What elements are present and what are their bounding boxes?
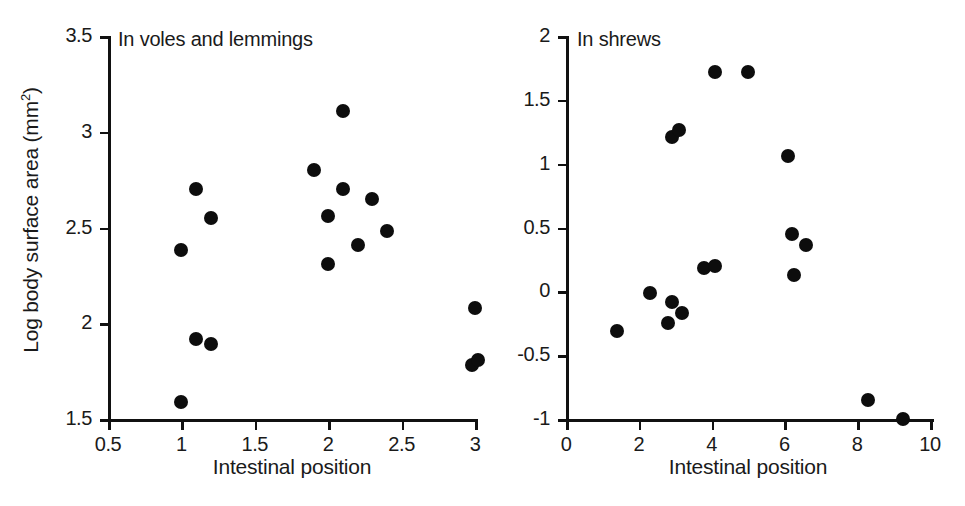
shrews-y-tick <box>558 355 566 358</box>
data-point <box>708 65 722 79</box>
shrews-y-tick <box>558 419 566 422</box>
data-point <box>189 332 203 346</box>
voles-x-tick <box>108 422 111 430</box>
data-point <box>672 123 686 137</box>
x-axis-label-voles: Intestinal position <box>108 455 476 479</box>
voles-y-tick-label: 3 <box>22 120 92 143</box>
data-point <box>675 306 689 320</box>
shrews-x-tick <box>566 422 569 430</box>
voles-y-tick <box>100 132 108 135</box>
shrews-y-axis-line <box>566 36 569 422</box>
voles-x-tick <box>475 422 478 430</box>
shrews-x-tick-label: 6 <box>744 433 824 456</box>
shrews-y-tick-label: 1.5 <box>480 88 550 111</box>
voles-x-tick <box>255 422 258 430</box>
shrews-y-tick-label: 2 <box>480 24 550 47</box>
voles-x-axis-line <box>108 419 478 422</box>
voles-y-tick <box>100 228 108 231</box>
figure-two-panel-scatter: Log body surface area (mm2) In voles and… <box>0 0 965 506</box>
x-axis-label-shrews: Intestinal position <box>566 455 930 479</box>
voles-x-tick <box>181 422 184 430</box>
voles-x-tick <box>328 422 331 430</box>
data-point <box>336 182 350 196</box>
voles-x-tick-label: 2.5 <box>362 433 442 456</box>
data-point <box>643 286 657 300</box>
data-point <box>321 257 335 271</box>
shrews-y-tick-label: 0.5 <box>480 216 550 239</box>
shrews-x-tick-label: 10 <box>890 433 965 456</box>
shrews-y-tick-label: 0 <box>480 279 550 302</box>
voles-x-tick <box>402 422 405 430</box>
shrews-x-tick <box>784 422 787 430</box>
shrews-x-tick <box>639 422 642 430</box>
shrews-x-tick-label: 4 <box>672 433 752 456</box>
shrews-y-tick-label: -1 <box>480 407 550 430</box>
voles-y-tick <box>100 323 108 326</box>
shrews-y-tick <box>558 36 566 39</box>
voles-y-axis-line <box>108 36 111 422</box>
data-point <box>204 211 218 225</box>
voles-x-tick-label: 1 <box>141 433 221 456</box>
data-point <box>174 243 188 257</box>
panel-voles-and-lemmings: Log body surface area (mm2) In voles and… <box>0 0 500 506</box>
shrews-y-tick-label: -0.5 <box>480 343 550 366</box>
plot-area-shrews: -1-0.500.511.520246810 <box>500 0 965 506</box>
data-point <box>610 324 624 338</box>
voles-y-tick <box>100 419 108 422</box>
data-point <box>380 224 394 238</box>
voles-y-tick-label: 1.5 <box>22 407 92 430</box>
data-point <box>896 412 910 426</box>
data-point <box>861 393 875 407</box>
shrews-y-tick <box>558 291 566 294</box>
voles-x-tick-label: 0.5 <box>68 433 148 456</box>
voles-y-tick-label: 2.5 <box>22 216 92 239</box>
data-point <box>741 65 755 79</box>
voles-y-tick-label: 3.5 <box>22 24 92 47</box>
shrews-y-tick <box>558 228 566 231</box>
data-point <box>787 268 801 282</box>
data-point <box>661 316 675 330</box>
data-point <box>665 295 679 309</box>
shrews-x-axis-line <box>566 419 934 422</box>
shrews-x-tick-label: 2 <box>599 433 679 456</box>
data-point <box>708 259 722 273</box>
voles-x-tick-label: 1.5 <box>215 433 295 456</box>
data-point <box>785 227 799 241</box>
data-point <box>781 149 795 163</box>
data-point <box>351 238 365 252</box>
shrews-y-tick-label: 1 <box>480 152 550 175</box>
shrews-x-tick-label: 0 <box>526 433 606 456</box>
voles-y-tick <box>100 36 108 39</box>
data-point <box>468 301 482 315</box>
shrews-x-tick <box>930 422 933 430</box>
plot-area-voles: 1.522.533.50.511.522.53 <box>0 0 500 506</box>
data-point <box>307 163 321 177</box>
voles-y-tick-label: 2 <box>22 311 92 334</box>
shrews-y-tick <box>558 100 566 103</box>
data-point <box>189 182 203 196</box>
shrews-y-tick <box>558 164 566 167</box>
data-point <box>204 337 218 351</box>
data-point <box>174 395 188 409</box>
data-point <box>365 192 379 206</box>
shrews-x-tick <box>857 422 860 430</box>
panel-shrews: In shrews -1-0.500.511.520246810 Intesti… <box>500 0 965 506</box>
shrews-x-tick-label: 8 <box>817 433 897 456</box>
shrews-x-tick <box>712 422 715 430</box>
voles-x-tick-label: 2 <box>288 433 368 456</box>
data-point <box>336 104 350 118</box>
data-point <box>321 209 335 223</box>
data-point <box>799 238 813 252</box>
